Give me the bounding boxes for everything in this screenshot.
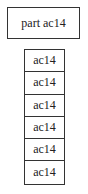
row-label: ac14 (33, 165, 56, 180)
row-label: ac14 (33, 142, 56, 157)
row-label: ac14 (33, 120, 56, 135)
stack-row: ac14 (25, 50, 64, 72)
row-label: ac14 (33, 75, 56, 90)
stack-row: ac14 (25, 95, 64, 117)
stack: ac14 ac14 ac14 ac14 ac14 ac14 (24, 49, 65, 185)
stack-row: ac14 (25, 72, 64, 94)
part-label: part ac14 (21, 16, 65, 31)
row-label: ac14 (33, 98, 56, 113)
stack-row: ac14 (25, 117, 64, 139)
stack-row: ac14 (25, 139, 64, 161)
row-label: ac14 (33, 53, 56, 68)
part-box: part ac14 (7, 7, 80, 39)
stack-row: ac14 (25, 161, 64, 183)
